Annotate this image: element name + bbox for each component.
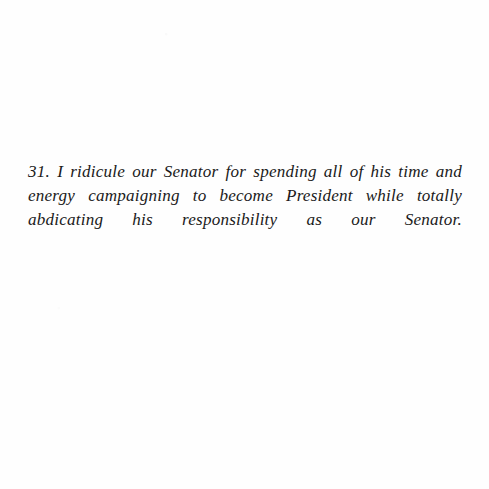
numbered-paragraph-31: 31. I ridicule our Senator for spending …: [28, 160, 462, 257]
scanned-page: 31. I ridicule our Senator for spending …: [0, 0, 489, 489]
paragraph-block: 31. I ridicule our Senator for spending …: [28, 160, 462, 257]
